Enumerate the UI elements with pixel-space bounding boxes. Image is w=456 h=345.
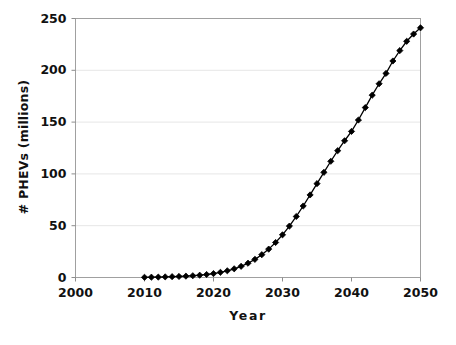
plot-frame <box>76 19 421 278</box>
y-tick-label: 0 <box>27 271 67 285</box>
y-tick-label: 200 <box>27 63 67 77</box>
y-tick-label: 250 <box>27 12 67 26</box>
x-tick-label: 2030 <box>253 286 313 300</box>
y-tick-label: 100 <box>27 167 67 181</box>
x-tick-label: 2000 <box>46 286 106 300</box>
data-point-markers <box>141 25 423 281</box>
y-tick-label: 50 <box>27 219 67 233</box>
data-line-series <box>145 28 421 277</box>
gridlines <box>76 19 421 226</box>
x-tick-label: 2010 <box>115 286 175 300</box>
x-axis-ticks <box>76 278 421 282</box>
x-tick-label: 2050 <box>391 286 451 300</box>
x-tick-label: 2040 <box>322 286 382 300</box>
x-tick-label: 2020 <box>184 286 244 300</box>
y-axis-title: # PHEVs (millions) <box>11 18 37 277</box>
x-axis-title: Year <box>75 308 421 323</box>
y-axis-ticks <box>72 19 76 278</box>
y-tick-label: 150 <box>27 115 67 129</box>
phev-projection-chart: # PHEVs (millions) 050100150200250 20002… <box>0 0 456 345</box>
